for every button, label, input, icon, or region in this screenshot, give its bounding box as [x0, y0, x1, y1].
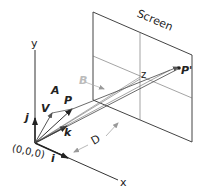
- p-prime-label: P': [181, 64, 192, 77]
- distance-arrow-upper: [106, 123, 118, 136]
- v-label: V: [41, 102, 51, 115]
- y-axis-label: y: [31, 37, 38, 50]
- a-label: A: [50, 84, 60, 97]
- b-vector: [85, 82, 104, 89]
- j-label: j: [23, 111, 29, 124]
- i-label: i: [51, 152, 55, 165]
- ray-lower: [35, 69, 178, 143]
- screen-label: Screen: [135, 7, 175, 34]
- x-axis-label: x: [120, 176, 127, 189]
- distance-arrow-lower: [74, 145, 88, 152]
- distance-label: D: [89, 132, 103, 148]
- k-label: k: [64, 126, 72, 139]
- z-axis-label: z: [141, 69, 146, 80]
- camera-projection-diagram: Screen y x z (0,0,0) i j k A V P B P' D: [0, 0, 202, 196]
- p-label: P: [64, 94, 72, 107]
- b-label: B: [79, 74, 87, 87]
